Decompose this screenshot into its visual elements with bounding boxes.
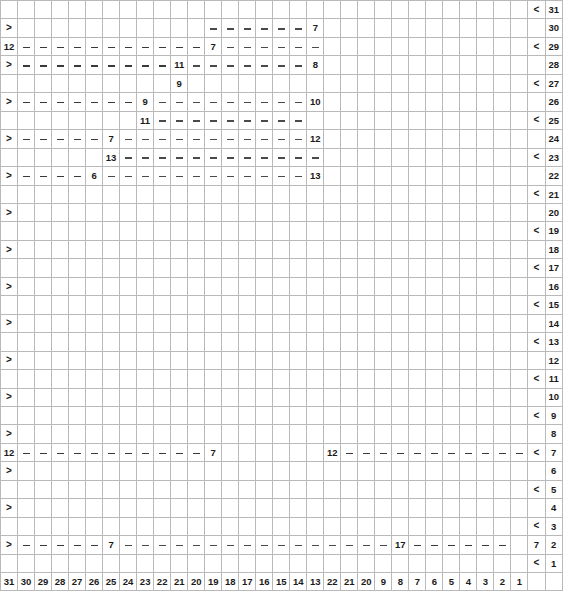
grid-cell[interactable] bbox=[137, 222, 154, 240]
grid-cell[interactable] bbox=[494, 185, 511, 203]
grid-cell[interactable] bbox=[171, 536, 188, 554]
grid-cell[interactable] bbox=[477, 277, 494, 295]
grid-cell[interactable] bbox=[171, 1, 188, 19]
grid-cell[interactable] bbox=[341, 222, 358, 240]
grid-cell[interactable] bbox=[52, 37, 69, 55]
grid-cell[interactable] bbox=[392, 499, 409, 517]
grid-cell[interactable] bbox=[341, 74, 358, 92]
grid-value-cell[interactable]: 11 bbox=[171, 56, 188, 74]
grid-cell[interactable] bbox=[358, 167, 375, 185]
grid-value-cell[interactable]: 13 bbox=[103, 148, 120, 166]
grid-cell[interactable] bbox=[409, 351, 426, 369]
grid-cell[interactable] bbox=[290, 333, 307, 351]
grid-cell[interactable] bbox=[511, 499, 528, 517]
grid-value-cell[interactable]: 11 bbox=[137, 111, 154, 129]
grid-cell[interactable] bbox=[409, 333, 426, 351]
grid-cell[interactable] bbox=[18, 56, 35, 74]
grid-cell[interactable] bbox=[341, 1, 358, 19]
grid-cell[interactable] bbox=[324, 74, 341, 92]
grid-cell[interactable] bbox=[392, 148, 409, 166]
grid-cell[interactable] bbox=[35, 74, 52, 92]
grid-cell[interactable] bbox=[222, 130, 239, 148]
grid-cell[interactable] bbox=[120, 130, 137, 148]
grid-cell[interactable] bbox=[273, 259, 290, 277]
grid-cell[interactable] bbox=[256, 517, 273, 535]
grid-cell[interactable] bbox=[103, 296, 120, 314]
grid-cell[interactable] bbox=[477, 425, 494, 443]
grid-cell[interactable] bbox=[69, 388, 86, 406]
grid-cell[interactable] bbox=[375, 351, 392, 369]
row-right-marker[interactable]: < bbox=[528, 185, 545, 203]
grid-cell[interactable] bbox=[222, 148, 239, 166]
row-right-marker[interactable] bbox=[528, 425, 545, 443]
grid-cell[interactable] bbox=[205, 222, 222, 240]
grid-cell[interactable] bbox=[137, 480, 154, 498]
grid-cell[interactable] bbox=[171, 406, 188, 424]
grid-cell[interactable] bbox=[324, 259, 341, 277]
grid-cell[interactable] bbox=[86, 480, 103, 498]
grid-cell[interactable] bbox=[69, 462, 86, 480]
grid-cell[interactable] bbox=[188, 333, 205, 351]
grid-cell[interactable] bbox=[273, 517, 290, 535]
grid-cell[interactable] bbox=[307, 148, 324, 166]
grid-cell[interactable] bbox=[239, 406, 256, 424]
grid-cell[interactable] bbox=[188, 536, 205, 554]
grid-cell[interactable] bbox=[69, 425, 86, 443]
row-right-marker[interactable]: < bbox=[528, 554, 545, 572]
grid-cell[interactable] bbox=[120, 462, 137, 480]
grid-cell[interactable] bbox=[205, 425, 222, 443]
grid-cell[interactable] bbox=[409, 37, 426, 55]
grid-cell[interactable] bbox=[392, 56, 409, 74]
row-right-marker[interactable] bbox=[528, 314, 545, 332]
grid-cell[interactable] bbox=[341, 240, 358, 258]
grid-cell[interactable] bbox=[307, 351, 324, 369]
grid-cell[interactable] bbox=[120, 111, 137, 129]
row-left-marker[interactable]: > bbox=[1, 93, 18, 111]
grid-cell[interactable] bbox=[511, 203, 528, 221]
grid-cell[interactable] bbox=[18, 388, 35, 406]
grid-value-cell[interactable]: 7 bbox=[205, 37, 222, 55]
grid-cell[interactable] bbox=[511, 388, 528, 406]
grid-cell[interactable] bbox=[460, 37, 477, 55]
grid-cell[interactable] bbox=[443, 388, 460, 406]
grid-cell[interactable] bbox=[409, 1, 426, 19]
grid-cell[interactable] bbox=[477, 185, 494, 203]
grid-cell[interactable] bbox=[35, 554, 52, 572]
grid-cell[interactable] bbox=[494, 93, 511, 111]
grid-cell[interactable] bbox=[443, 37, 460, 55]
grid-cell[interactable] bbox=[341, 462, 358, 480]
grid-cell[interactable] bbox=[511, 74, 528, 92]
grid-cell[interactable] bbox=[273, 351, 290, 369]
grid-cell[interactable] bbox=[171, 480, 188, 498]
grid-cell[interactable] bbox=[273, 388, 290, 406]
grid-cell[interactable] bbox=[477, 314, 494, 332]
grid-cell[interactable] bbox=[494, 1, 511, 19]
grid-cell[interactable] bbox=[460, 351, 477, 369]
grid-cell[interactable] bbox=[188, 222, 205, 240]
grid-cell[interactable] bbox=[35, 1, 52, 19]
grid-cell[interactable] bbox=[290, 462, 307, 480]
grid-cell[interactable] bbox=[18, 148, 35, 166]
grid-cell[interactable] bbox=[290, 74, 307, 92]
grid-cell[interactable] bbox=[477, 351, 494, 369]
grid-cell[interactable] bbox=[86, 406, 103, 424]
grid-cell[interactable] bbox=[120, 425, 137, 443]
grid-cell[interactable] bbox=[426, 277, 443, 295]
grid-cell[interactable] bbox=[103, 222, 120, 240]
grid-cell[interactable] bbox=[477, 56, 494, 74]
grid-cell[interactable] bbox=[239, 240, 256, 258]
grid-cell[interactable] bbox=[511, 370, 528, 388]
grid-cell[interactable] bbox=[409, 499, 426, 517]
grid-cell[interactable] bbox=[290, 499, 307, 517]
grid-cell[interactable] bbox=[375, 37, 392, 55]
grid-cell[interactable] bbox=[171, 277, 188, 295]
grid-cell[interactable] bbox=[52, 462, 69, 480]
grid-cell[interactable] bbox=[307, 406, 324, 424]
grid-cell[interactable] bbox=[222, 554, 239, 572]
grid-cell[interactable] bbox=[324, 554, 341, 572]
grid-cell[interactable] bbox=[273, 185, 290, 203]
grid-cell[interactable] bbox=[137, 370, 154, 388]
grid-cell[interactable] bbox=[426, 554, 443, 572]
grid-cell[interactable] bbox=[205, 314, 222, 332]
grid-cell[interactable] bbox=[256, 37, 273, 55]
